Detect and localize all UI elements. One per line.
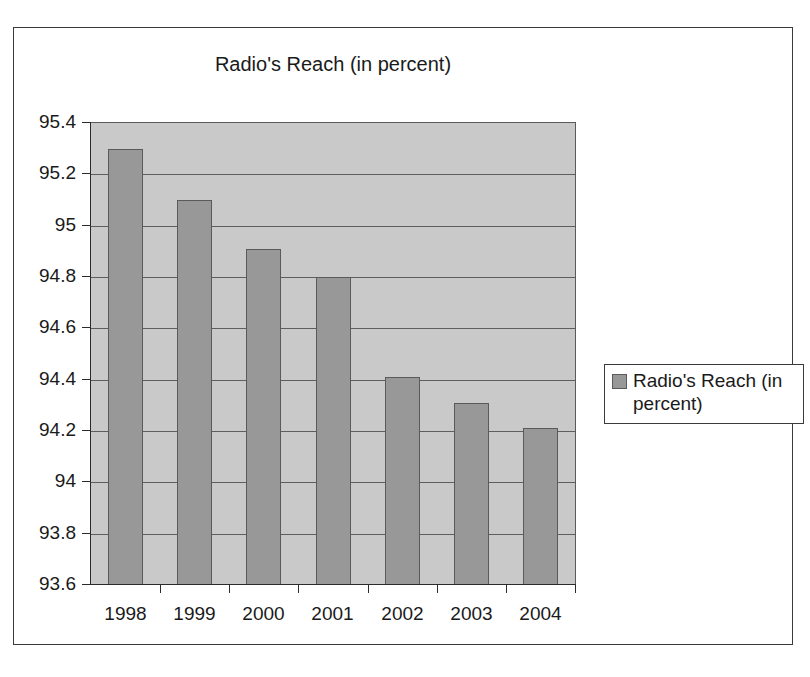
x-axis-tick-label: 2004 xyxy=(506,604,575,623)
x-axis-tick-label: 2000 xyxy=(229,604,298,623)
chart-container: Radio's Reach (in percent) 95.495.29594.… xyxy=(13,27,793,645)
y-axis-tick xyxy=(82,122,91,123)
y-axis-tick xyxy=(82,533,91,534)
legend-item: Radio's Reach (in percent) xyxy=(612,370,797,416)
y-axis-tick-label: 95.4 xyxy=(14,112,76,131)
x-axis-tick xyxy=(437,585,438,593)
x-axis-tick xyxy=(229,585,230,593)
y-axis-tick xyxy=(82,584,91,585)
y-axis-tick-label: 94.2 xyxy=(14,420,76,439)
x-axis-tick xyxy=(298,585,299,593)
x-axis-tick xyxy=(575,585,576,593)
y-axis-tick-label: 93.8 xyxy=(14,523,76,542)
bar xyxy=(523,428,558,585)
chart-title: Radio's Reach (in percent) xyxy=(91,53,575,76)
y-axis-tick xyxy=(82,481,91,482)
bar xyxy=(385,377,420,585)
bar xyxy=(108,149,143,585)
x-axis-tick xyxy=(506,585,507,593)
bar xyxy=(454,403,489,585)
y-axis-tick-label: 95.2 xyxy=(14,163,76,182)
y-axis-tick-label: 94.6 xyxy=(14,317,76,336)
x-axis-tick-label: 1999 xyxy=(160,604,229,623)
x-axis-tick xyxy=(368,585,369,593)
x-axis-tick-label: 2003 xyxy=(437,604,506,623)
y-axis-tick-label: 95 xyxy=(14,215,76,234)
y-axis-tick xyxy=(82,327,91,328)
y-axis-tick xyxy=(82,430,91,431)
plot-area xyxy=(91,122,576,585)
legend-color-swatch-icon xyxy=(612,374,627,389)
y-axis-tick-label: 93.6 xyxy=(14,574,76,593)
y-axis-tick-label: 94 xyxy=(14,471,76,490)
y-axis-tick xyxy=(82,225,91,226)
chart-legend: Radio's Reach (in percent) xyxy=(604,364,804,424)
bar xyxy=(316,277,351,585)
bar xyxy=(246,249,281,585)
y-axis-tick xyxy=(82,379,91,380)
y-axis-tick xyxy=(82,276,91,277)
x-axis-tick xyxy=(160,585,161,593)
y-axis-line xyxy=(90,122,91,585)
y-axis-tick-label: 94.8 xyxy=(14,266,76,285)
gridline xyxy=(91,174,575,175)
x-axis-tick-label: 1998 xyxy=(91,604,160,623)
x-axis-tick-label: 2002 xyxy=(368,604,437,623)
x-axis-line xyxy=(90,584,576,585)
x-axis-tick-label: 2001 xyxy=(298,604,367,623)
y-axis-tick-label: 94.4 xyxy=(14,369,76,388)
bar xyxy=(177,200,212,585)
y-axis-tick xyxy=(82,173,91,174)
legend-item-label: Radio's Reach (in percent) xyxy=(633,370,797,416)
gridline xyxy=(91,226,575,227)
